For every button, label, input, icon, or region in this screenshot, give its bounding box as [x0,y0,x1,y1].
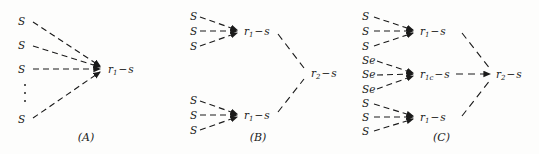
panel-b: S S S S S S r1−s r1−s r2−s (B) [172,0,344,154]
panel-a: S S S S r1−s (A) [0,0,172,154]
node-source-s: S [18,16,25,27]
panel-c: S S S Se Se Se S S S r1−s r1c−s r1−s r2−… [344,0,539,154]
edge-s3-to-r1-top [200,33,237,46]
node-intermediate-r1: r1−s [244,110,270,121]
edge-r1-top-to-r2 [462,33,491,70]
node-source-se: Se [362,55,375,66]
vertical-ellipsis [24,84,26,102]
node-source-s: S [18,64,25,75]
edge-r1-top-to-r2 [278,34,304,68]
node-source-s: S [190,26,197,37]
node-intermediate-r1c: r1c−s [420,69,450,80]
node-source-s: S [362,11,369,22]
panel-a-caption: (A) [0,131,172,144]
node-source-se: Se [362,69,375,80]
node-source-s: S [190,41,197,52]
node-product-r1: r1−s [108,64,134,75]
panel-b-caption: (B) [172,131,344,144]
edge-s1-to-r1-top [374,17,413,30]
node-source-s: S [362,41,369,52]
reaction-scheme-figure: S S S S r1−s (A) [0,0,539,154]
node-product-r2: r2−s [496,69,522,80]
node-source-s: S [190,11,197,22]
edge-s1-to-r1-top [200,17,237,30]
edge-r1-bottom-to-r2 [462,79,491,116]
edge-s3-to-r1-top [374,33,413,46]
edge-s6-to-r1-bottom [374,119,413,131]
edge-s6-to-r1-bottom [200,117,237,130]
edge-s1-to-r1 [33,22,100,66]
edge-se3-to-r1c [377,76,413,89]
edge-s4-to-r1 [33,72,100,118]
node-source-s: S [190,110,197,121]
node-source-s: S [362,112,369,123]
edge-se2-to-r1c [377,74,413,75]
edge-se1-to-r1c [377,61,413,73]
node-source-s: S [18,114,25,125]
edge-s4-to-r1-bottom [374,104,413,116]
node-intermediate-r1: r1−s [420,26,446,37]
node-intermediate-r1: r1−s [420,112,446,123]
edge-s4-to-r1-bottom [200,101,237,114]
edge-r1-bottom-to-r2 [278,79,304,112]
node-source-s: S [18,40,25,51]
node-source-s: S [190,95,197,106]
node-source-s: S [362,98,369,109]
node-intermediate-r1: r1−s [244,26,270,37]
panel-c-caption: (C) [344,131,539,144]
node-source-s: S [362,26,369,37]
edge-s2-to-r1 [33,46,100,67]
node-source-se: Se [362,84,375,95]
node-product-r2: r2−s [311,68,337,79]
